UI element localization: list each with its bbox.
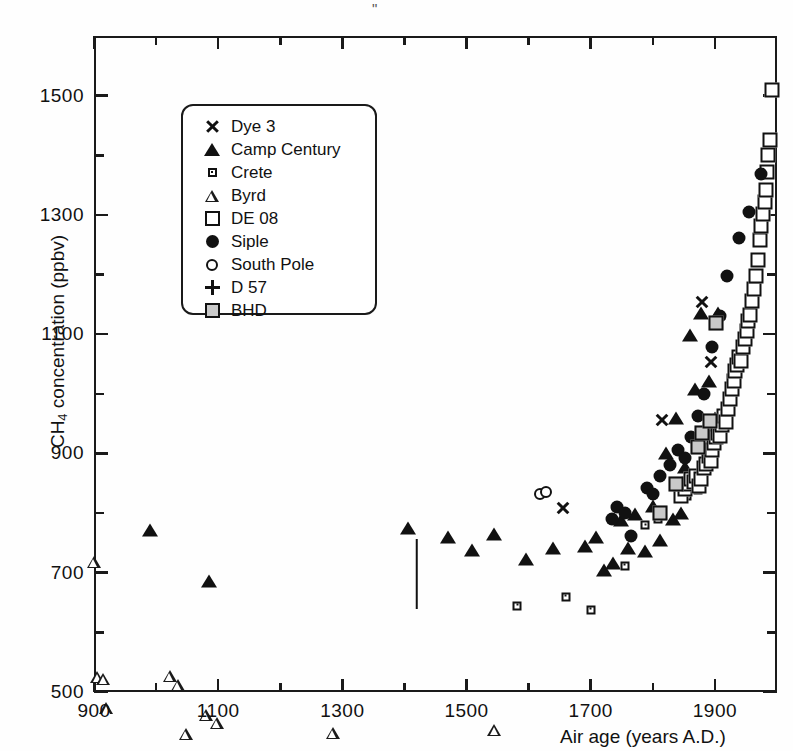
data-point-de-08	[765, 82, 780, 97]
data-point-camp-century	[201, 575, 217, 588]
x-marker-icon	[197, 120, 227, 133]
data-point-dye-3	[556, 502, 569, 515]
legend-box: Dye 3Camp CenturyCreteByrdDE 08SipleSout…	[181, 104, 377, 315]
data-point-de-08	[752, 232, 767, 247]
plus-marker-icon	[197, 280, 227, 295]
x-axis-top-tick	[93, 36, 96, 49]
data-point-de-08	[750, 252, 765, 267]
data-point-byrd	[96, 673, 110, 685]
y-axis-tick	[94, 571, 108, 574]
data-point-dye-3	[656, 413, 669, 426]
data-point-siple	[697, 387, 710, 400]
y-axis-tick	[94, 333, 108, 336]
x-axis-top-tick	[714, 36, 717, 49]
x-axis-tick	[155, 683, 158, 692]
legend-item-label: Byrd	[227, 186, 266, 206]
data-point-siple	[743, 205, 756, 218]
x-axis-tick	[279, 683, 282, 692]
x-tick-label: 1500	[444, 700, 488, 722]
y-axis-right-tick	[767, 512, 777, 515]
y-axis-right-tick	[763, 333, 777, 336]
data-point-de-08	[762, 133, 777, 148]
data-point-camp-century	[668, 411, 684, 424]
x-axis-tick	[589, 679, 592, 692]
x-axis-top-tick	[527, 36, 530, 45]
data-point-bhd	[702, 413, 717, 428]
data-point-camp-century	[486, 527, 502, 540]
y-axis-tick	[94, 393, 104, 396]
data-point-byrd	[87, 556, 101, 568]
legend-item-label: Dye 3	[227, 117, 275, 137]
y-axis-tick	[94, 631, 104, 634]
filled-circle-icon	[197, 235, 227, 248]
y-axis-title: CH4 concentration (ppbv)	[47, 192, 70, 492]
data-point-de-08	[758, 182, 773, 197]
data-point-camp-century	[673, 507, 689, 520]
data-point-camp-century	[693, 307, 709, 320]
legend-item-label: Crete	[227, 163, 273, 183]
x-axis-top-tick	[155, 36, 158, 45]
y-axis-right-tick	[763, 691, 777, 694]
data-point-siple	[664, 459, 677, 472]
data-point-crete	[586, 605, 595, 614]
data-point-camp-century	[588, 530, 604, 543]
x-axis-top-tick	[403, 36, 406, 45]
data-point-dye-3	[704, 356, 717, 369]
data-point-siple	[721, 269, 734, 282]
data-point-camp-century	[440, 530, 456, 543]
scan-artifact-speck: "	[372, 0, 377, 17]
y-axis-right-tick	[767, 631, 777, 634]
x-tick-label: 1700	[569, 700, 613, 722]
data-point-siple	[705, 341, 718, 354]
legend-item-siple: Siple	[197, 230, 341, 253]
data-point-south-pole	[540, 486, 552, 498]
data-point-siple	[618, 507, 631, 520]
legend-item-d-57: D 57	[197, 276, 341, 299]
data-point-camp-century	[545, 541, 561, 554]
legend-item-de-08: DE 08	[197, 207, 341, 230]
y-axis-right-tick	[763, 452, 777, 455]
data-point-siple	[654, 470, 667, 483]
legend-item-crete: Crete	[197, 161, 341, 184]
y-tick-label: 1500	[40, 85, 84, 107]
x-axis-top-tick	[279, 36, 282, 45]
data-point-camp-century	[400, 522, 416, 535]
data-point-camp-century	[518, 553, 534, 566]
y-tick-label: 700	[51, 562, 84, 584]
data-point-camp-century	[682, 329, 698, 342]
x-tick-label: 1100	[197, 700, 240, 722]
x-axis-top-tick	[217, 36, 220, 49]
x-tick-label: 1900	[693, 700, 737, 722]
data-point-camp-century	[701, 374, 717, 387]
legend-item-label: Camp Century	[227, 140, 341, 160]
legend-item-label: DE 08	[227, 209, 278, 229]
y-axis-tick-labels: 500700900110013001500	[0, 0, 84, 751]
data-point-crete	[513, 601, 522, 610]
data-point-byrd	[171, 679, 185, 691]
data-point-camp-century	[620, 541, 636, 554]
x-tick-label: 900	[77, 700, 110, 722]
data-point-camp-century	[464, 544, 480, 557]
y-axis-tick	[94, 214, 108, 217]
legend-item-label: BHD	[227, 301, 267, 321]
y-axis-tick	[94, 154, 104, 157]
open-square-icon	[197, 211, 227, 226]
x-axis-top-tick	[465, 36, 468, 49]
y-axis-tick	[94, 94, 108, 97]
data-point-camp-century	[637, 544, 653, 557]
data-point-camp-century	[605, 557, 621, 570]
open-circle-icon	[197, 259, 227, 271]
x-axis-title: Air age (years A.D.)	[560, 726, 726, 748]
ch4-concentration-scatter-figure: " 500700900110013001500 9001100130015001…	[0, 0, 793, 751]
legend-item-camp-century: Camp Century	[197, 138, 341, 161]
x-axis-tick	[527, 683, 530, 692]
data-point-de-08	[747, 282, 762, 297]
data-point-siple	[755, 168, 768, 181]
error-bar	[416, 539, 419, 608]
data-point-camp-century	[142, 523, 158, 536]
x-tick-label: 1300	[320, 700, 364, 722]
data-point-bhd	[709, 316, 724, 331]
data-point-bhd	[669, 477, 684, 492]
filled-triangle-icon	[197, 143, 227, 156]
data-point-siple	[732, 231, 745, 244]
